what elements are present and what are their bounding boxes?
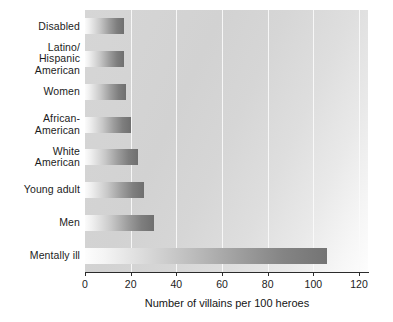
x-axis-line <box>85 272 369 273</box>
x-axis-title: Number of villains per 100 heroes <box>85 296 369 310</box>
bar <box>85 149 138 165</box>
gridline-20 <box>131 10 132 272</box>
bar <box>85 51 124 67</box>
gridline-40 <box>176 10 177 272</box>
x-tick-label: 0 <box>82 278 88 291</box>
x-tick-mark <box>359 272 360 276</box>
gridline-60 <box>222 10 223 272</box>
x-tick-label: 40 <box>170 278 182 291</box>
category-label: Women <box>0 86 80 98</box>
category-label: Disabled <box>0 21 80 33</box>
category-label-column: DisabledLatino/ Hispanic AmericanWomenAf… <box>0 10 80 272</box>
x-tick-mark <box>131 272 132 276</box>
gridline-120 <box>359 10 360 272</box>
gridline-80 <box>268 10 269 272</box>
x-tick-mark <box>176 272 177 276</box>
x-tick-mark <box>222 272 223 276</box>
category-label: White American <box>0 146 80 169</box>
gridline-100 <box>313 10 314 272</box>
category-label: Men <box>0 217 80 229</box>
bar <box>85 215 154 231</box>
x-tick-mark <box>268 272 269 276</box>
category-label: Latino/ Hispanic American <box>0 42 80 77</box>
category-label: Mentally ill <box>0 250 80 262</box>
x-tick-label: 20 <box>125 278 137 291</box>
bar-chart: DisabledLatino/ Hispanic AmericanWomenAf… <box>0 0 393 322</box>
bar <box>85 182 144 198</box>
plot-area <box>85 10 368 272</box>
bar <box>85 117 131 133</box>
bar <box>85 248 327 264</box>
x-tick-mark <box>313 272 314 276</box>
x-tick-label: 100 <box>305 278 323 291</box>
x-tick-label: 60 <box>216 278 228 291</box>
bar <box>85 84 126 100</box>
category-label: Young adult <box>0 184 80 196</box>
x-tick-label: 120 <box>350 278 368 291</box>
x-tick-mark <box>85 272 86 276</box>
x-tick-label: 80 <box>262 278 274 291</box>
category-label: African- American <box>0 113 80 136</box>
bar <box>85 18 124 34</box>
